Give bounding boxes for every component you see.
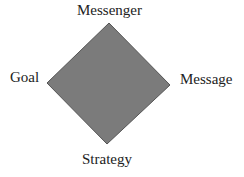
label-strategy: Strategy	[82, 152, 132, 167]
label-goal: Goal	[10, 70, 39, 85]
label-messenger: Messenger	[77, 3, 142, 18]
label-message: Message	[180, 72, 233, 87]
diamond-shape	[47, 23, 170, 144]
